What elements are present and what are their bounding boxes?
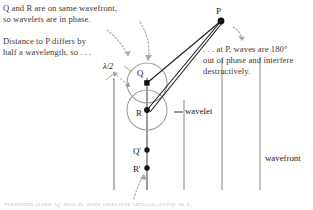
clipped-caption-text: Wavelets from Q' and R' also interfere d…	[3, 203, 192, 208]
label-point-R-prime: R'	[133, 164, 140, 174]
callout-arrow-to-Q	[140, 22, 149, 60]
half-wavelength-tick-upper	[124, 66, 132, 72]
annotation-same-wavefront: Q and R are on same wavefront, so wavele…	[3, 3, 117, 25]
label-point-R: R	[136, 108, 142, 118]
label-wavefront: wavefront	[265, 153, 301, 163]
annotation-path-difference: Distance to P differs by half a waveleng…	[3, 36, 92, 58]
physics-diagram-figure: Q and R are on same wavefront, so wavele…	[0, 0, 313, 210]
point-marker-Q	[144, 80, 149, 85]
arrowhead-to-R-prime	[140, 174, 147, 180]
arrowhead-from-P	[238, 36, 245, 41]
label-wavelet: wavelet	[185, 106, 212, 116]
diagram-canvas	[0, 0, 313, 210]
half-wavelength-tick-lower	[106, 74, 113, 80]
point-marker-P	[218, 18, 225, 25]
label-point-Q: Q	[137, 68, 143, 78]
point-marker-R-prime	[144, 165, 149, 170]
arrowhead-left	[124, 51, 131, 56]
point-marker-Q-prime	[144, 147, 149, 152]
label-half-wavelength: λ/2	[103, 62, 113, 71]
label-point-Q-prime: Q'	[133, 146, 141, 156]
clipped-caption-region: Wavelets from Q' and R' also interfere d…	[0, 203, 313, 210]
annotation-destructive-interference: . . . at P, waves are 180° out of phase …	[203, 44, 293, 78]
label-point-P: P	[216, 6, 221, 16]
point-marker-R	[144, 107, 150, 113]
arrowhead-to-Q	[145, 55, 152, 61]
